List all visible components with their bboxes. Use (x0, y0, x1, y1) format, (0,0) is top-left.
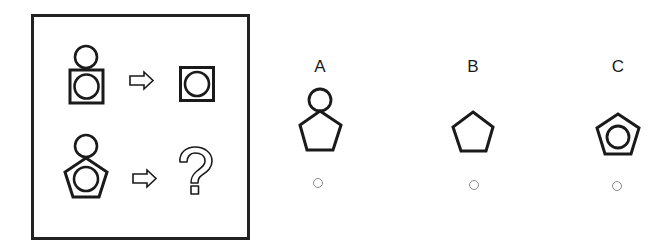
inner-circle-icon (607, 126, 629, 148)
circle-icon (309, 89, 331, 111)
question-mark-icon (180, 147, 212, 194)
right-arrow-icon (130, 72, 153, 89)
pentagon-icon (300, 111, 341, 150)
option-a-figure (300, 89, 341, 150)
row1-result-figure (181, 68, 214, 101)
top-circle-icon (75, 46, 97, 68)
puzzle-figures (0, 0, 669, 242)
option-b-label: B (458, 58, 488, 75)
inner-circle-icon (75, 75, 99, 99)
inner-circle-icon (185, 72, 209, 96)
inner-circle-icon (74, 167, 98, 191)
row2-source-figure (65, 135, 107, 197)
right-arrow-icon (133, 170, 156, 187)
option-c-label: C (603, 58, 633, 75)
question-frame (33, 16, 249, 239)
option-b-radio[interactable] (469, 180, 479, 190)
puzzle-stage: A B C (0, 0, 669, 242)
row1-source-figure (70, 46, 103, 103)
option-b-figure (453, 112, 493, 151)
pentagon-icon (453, 112, 493, 151)
option-c-figure (597, 114, 639, 154)
top-circle-icon (75, 135, 97, 157)
option-a-radio[interactable] (313, 178, 323, 188)
option-a-label: A (305, 58, 335, 75)
option-c-radio[interactable] (612, 181, 622, 191)
